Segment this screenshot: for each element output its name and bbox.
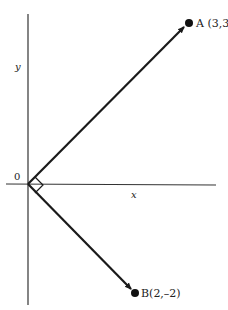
right-angle-marker <box>35 177 43 193</box>
point-b-label: B(2,–2) <box>141 287 181 300</box>
point-a <box>185 19 193 27</box>
vector-oa <box>28 27 184 184</box>
y-axis-label: y <box>14 61 21 72</box>
coordinate-diagram: A (3,3) B(2,–2) 0 x y <box>0 0 228 310</box>
x-axis <box>6 184 216 185</box>
vector-ob <box>28 184 131 289</box>
point-b <box>131 289 139 297</box>
x-axis-label: x <box>131 189 137 200</box>
origin-label: 0 <box>14 171 20 182</box>
point-a-label: A (3,3) <box>195 17 228 30</box>
